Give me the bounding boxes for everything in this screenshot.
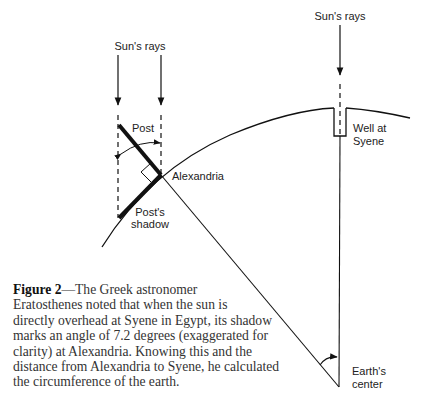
caption-line-3: directly overhead at Syene in Egypt, its…	[13, 313, 283, 328]
figure-caption: Figure 2—The Greek astronomer Eratosthen…	[13, 282, 283, 390]
post-shadow-label-2: shadow	[131, 218, 169, 230]
figure-label: Figure 2	[13, 282, 61, 297]
caption-line-6: distance from Alexandria to Syene, he ca…	[13, 359, 283, 374]
caption-line-1: Figure 2—The Greek astronomer	[13, 282, 283, 297]
post-shadow-label-1: Post's	[135, 206, 165, 218]
caption-line-7: the circumference of the earth.	[13, 374, 283, 389]
caption-line-4: marks an angle of 7.2 degrees (exaggerat…	[13, 328, 283, 343]
sun-rays-label-right: Sun's rays	[314, 10, 366, 22]
earth-center-label-1: Earth's	[352, 365, 386, 377]
center-angle-arc	[320, 357, 337, 365]
caption-text-1: —The Greek astronomer	[61, 282, 197, 297]
earth-center-label-2: center	[352, 378, 383, 390]
caption-line-5: clarity) at Alexandria. Knowing this and…	[13, 344, 283, 359]
alexandria-label: Alexandria	[172, 170, 225, 182]
well-label-1: Well at	[353, 122, 386, 134]
caption-line-2: Eratosthenes noted that when the sun is	[13, 297, 283, 312]
well-label-2: Syene	[353, 135, 384, 147]
right-angle-marker	[141, 163, 151, 182]
post-label: Post	[132, 122, 154, 134]
sun-rays-label-left: Sun's rays	[114, 40, 166, 52]
syene-radius-line	[339, 136, 340, 387]
